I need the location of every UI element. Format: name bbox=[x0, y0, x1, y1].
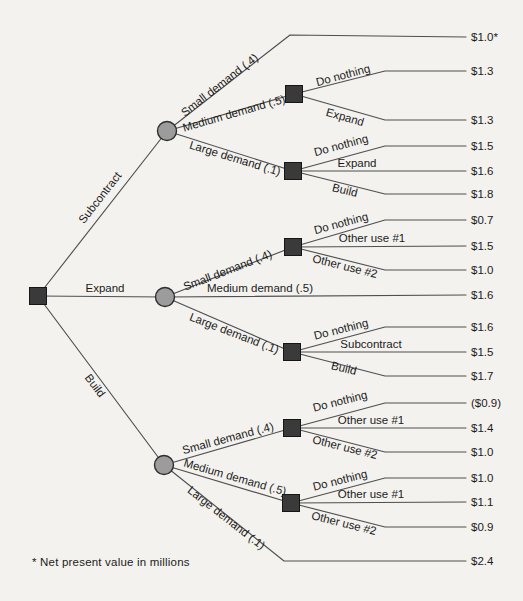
terminal-value-sub-small-demand: $1.0* bbox=[471, 31, 498, 43]
terminal-value-bld-sm-do-nothing: ($0.9) bbox=[471, 397, 501, 409]
branch-line-exp-sm-other-use-1 bbox=[293, 246, 466, 247]
terminal-value-exp-lg-subcontract: $1.5 bbox=[471, 346, 493, 358]
branch-line-exp-medium-demand bbox=[165, 295, 466, 297]
decision-tree-svg: SubcontractExpandBuildSmall demand (.4)$… bbox=[0, 0, 523, 601]
terminal-value-sub-med-expand: $1.3 bbox=[471, 114, 493, 126]
terminal-value-sub-med-do-nothing: $1.3 bbox=[471, 65, 493, 77]
sub-medium-decision-node bbox=[286, 86, 303, 103]
terminal-value-build-large-demand: $2.4 bbox=[471, 555, 494, 567]
terminal-value-exp-lg-do-nothing: $1.6 bbox=[471, 321, 493, 333]
branch-label-bld-md-other-use-1: Other use #1 bbox=[338, 488, 404, 500]
expand-chance-node bbox=[156, 288, 175, 307]
branch-label-root-build: Build bbox=[83, 372, 108, 400]
branch-label-build-small-demand: Small demand (.4) bbox=[181, 420, 275, 456]
root-decision-node bbox=[30, 288, 47, 305]
branch-label-exp-medium-demand: Medium demand (.5) bbox=[207, 282, 313, 294]
subcontract-chance-node bbox=[158, 122, 177, 141]
branch-label-sub-lg-do-nothing: Do nothing bbox=[313, 132, 370, 158]
branch-label-sub-lg-expand: Expand bbox=[337, 157, 376, 169]
build-medium-decision-node bbox=[283, 495, 300, 512]
branch-label-build-large-demand: Large demand (.1) bbox=[185, 484, 267, 552]
branch-line-sub-lg-build bbox=[293, 171, 466, 194]
terminal-value-exp-lg-build: $1.7 bbox=[471, 370, 493, 382]
terminal-value-bld-md-other-use-2: $0.9 bbox=[471, 521, 493, 533]
branch-label-exp-lg-subcontract: Subcontract bbox=[340, 338, 402, 350]
terminal-value-bld-md-do-nothing: $1.0 bbox=[471, 472, 493, 484]
build-chance-node bbox=[155, 456, 174, 475]
branch-line-root-expand bbox=[38, 296, 165, 297]
branch-label-bld-md-other-use-2: Other use #2 bbox=[310, 509, 377, 537]
terminal-value-bld-sm-other-use-2: $1.0 bbox=[471, 446, 493, 458]
branch-label-sub-med-do-nothing: Do nothing bbox=[315, 62, 372, 88]
terminal-value-bld-sm-other-use-1: $1.4 bbox=[471, 422, 494, 434]
exp-large-decision-node bbox=[284, 344, 301, 361]
branch-line-root-subcontract bbox=[38, 131, 167, 296]
sub-large-decision-node bbox=[285, 163, 302, 180]
branch-label-bld-sm-other-use-1: Other use #1 bbox=[338, 414, 404, 426]
decision-tree-figure: SubcontractExpandBuildSmall demand (.4)$… bbox=[0, 0, 523, 601]
footnote: * Net present value in millions bbox=[32, 556, 190, 568]
branch-label-exp-sm-other-use-2: Other use #2 bbox=[311, 252, 378, 280]
terminal-value-exp-medium-demand: $1.6 bbox=[471, 289, 493, 301]
terminal-value-sub-lg-expand: $1.6 bbox=[471, 165, 493, 177]
branch-line-root-build bbox=[38, 296, 164, 465]
terminal-value-exp-sm-do-nothing: $0.7 bbox=[471, 214, 493, 226]
branch-label-exp-large-demand: Large demand (.1) bbox=[188, 311, 281, 356]
branch-line-sub-med-expand bbox=[294, 94, 466, 120]
branch-label-sub-large-demand: Large demand (.1) bbox=[188, 139, 282, 178]
branch-label-exp-sm-other-use-1: Other use #1 bbox=[339, 232, 405, 244]
terminal-value-sub-lg-do-nothing: $1.5 bbox=[471, 140, 493, 152]
terminal-value-exp-sm-other-use-2: $1.0 bbox=[471, 264, 493, 276]
branch-line-exp-lg-build bbox=[292, 352, 466, 376]
build-small-decision-node bbox=[284, 420, 301, 437]
exp-small-decision-node bbox=[285, 239, 302, 256]
branch-line-bld-md-other-use-1 bbox=[291, 502, 466, 503]
branch-label-bld-sm-other-use-2: Other use #2 bbox=[311, 433, 378, 461]
branch-label-sub-med-expand: Expand bbox=[325, 106, 366, 128]
terminal-value-bld-md-other-use-1: $1.1 bbox=[471, 496, 493, 508]
branch-label-sub-lg-build: Build bbox=[331, 181, 359, 199]
terminal-value-sub-lg-build: $1.8 bbox=[471, 188, 493, 200]
terminal-value-exp-sm-other-use-1: $1.5 bbox=[471, 240, 493, 252]
branch-label-exp-lg-build: Build bbox=[330, 359, 358, 377]
branch-label-root-expand: Expand bbox=[85, 282, 124, 294]
